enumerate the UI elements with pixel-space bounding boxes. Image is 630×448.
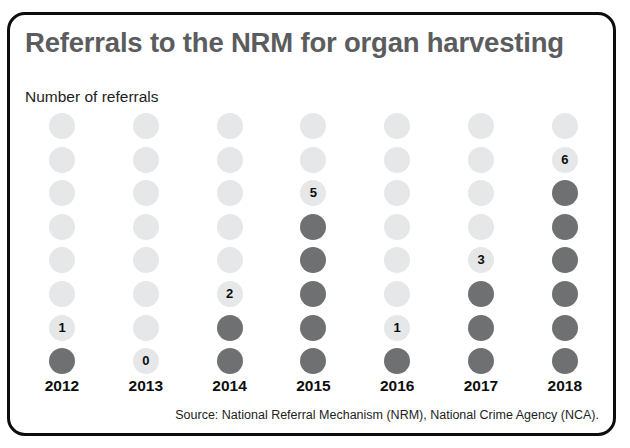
dot-2016-2: 1 <box>384 315 410 341</box>
dot-2013-7 <box>133 147 159 173</box>
chart-axis-label-y: Number of referrals <box>25 88 159 106</box>
dot-2018-5 <box>552 214 578 240</box>
dot-2014-8 <box>217 113 243 139</box>
x-tick-2013: 2013 <box>115 377 177 395</box>
dot-2016-5 <box>384 214 410 240</box>
source-note: Source: National Referral Mechanism (NRM… <box>10 408 599 422</box>
dot-2014-3: 2 <box>217 281 243 307</box>
dot-2015-1 <box>300 348 326 374</box>
dot-2014-6 <box>217 180 243 206</box>
dot-2014-1 <box>217 348 243 374</box>
dot-2017-4: 3 <box>468 247 494 273</box>
dot-2018-6 <box>552 180 578 206</box>
dot-2017-3 <box>468 281 494 307</box>
dot-2018-7: 6 <box>552 147 578 173</box>
dot-2013-3 <box>133 281 159 307</box>
dot-2013-1: 0 <box>133 348 159 374</box>
x-tick-2012: 2012 <box>31 377 93 395</box>
dot-2014-7 <box>217 147 243 173</box>
dot-2016-1 <box>384 348 410 374</box>
dot-column-2018: 6 <box>534 113 596 368</box>
dot-2014-4 <box>217 247 243 273</box>
dot-2012-8 <box>49 113 75 139</box>
x-tick-2015: 2015 <box>282 377 344 395</box>
dot-2015-4 <box>300 247 326 273</box>
x-tick-2018: 2018 <box>534 377 596 395</box>
dot-2015-8 <box>300 113 326 139</box>
dot-2017-1 <box>468 348 494 374</box>
dot-2014-5 <box>217 214 243 240</box>
dot-value-label-2014: 2 <box>217 281 243 307</box>
dot-column-2014: 2 <box>199 113 261 368</box>
dot-2016-3 <box>384 281 410 307</box>
chart-figure: Referrals to the NRM for organ harvestin… <box>7 12 616 436</box>
x-tick-2016: 2016 <box>366 377 428 395</box>
x-tick-2017: 2017 <box>450 377 512 395</box>
dot-2016-8 <box>384 113 410 139</box>
dot-2016-6 <box>384 180 410 206</box>
dot-2014-2 <box>217 315 243 341</box>
dot-value-label-2015: 5 <box>300 180 326 206</box>
dot-2017-6 <box>468 180 494 206</box>
dot-2016-7 <box>384 147 410 173</box>
dot-2017-8 <box>468 113 494 139</box>
dot-2015-2 <box>300 315 326 341</box>
dot-column-2017: 3 <box>450 113 512 368</box>
dot-value-label-2012: 1 <box>49 315 75 341</box>
dot-value-label-2017: 3 <box>468 247 494 273</box>
dot-2018-4 <box>552 247 578 273</box>
dot-value-label-2016: 1 <box>384 315 410 341</box>
dot-value-label-2018: 6 <box>552 147 578 173</box>
dot-2016-4 <box>384 247 410 273</box>
dot-2017-2 <box>468 315 494 341</box>
plot-area: 1025136 <box>10 113 613 368</box>
dot-2018-2 <box>552 315 578 341</box>
dot-column-2016: 1 <box>366 113 428 368</box>
dot-2012-3 <box>49 281 75 307</box>
dot-2013-5 <box>133 214 159 240</box>
dot-2015-3 <box>300 281 326 307</box>
dot-2013-6 <box>133 180 159 206</box>
dot-2018-1 <box>552 348 578 374</box>
dot-2013-8 <box>133 113 159 139</box>
dot-2013-2 <box>133 315 159 341</box>
dot-column-2012: 1 <box>31 113 93 368</box>
dot-2017-7 <box>468 147 494 173</box>
dot-value-label-2013: 0 <box>133 348 159 374</box>
dot-2012-1 <box>49 348 75 374</box>
chart-title: Referrals to the NRM for organ harvestin… <box>25 27 564 59</box>
dot-2015-7 <box>300 147 326 173</box>
x-axis: 2012201320142015201620172018 <box>10 377 613 401</box>
x-tick-2014: 2014 <box>199 377 261 395</box>
dot-column-2015: 5 <box>282 113 344 368</box>
dot-2018-8 <box>552 113 578 139</box>
dot-2015-6: 5 <box>300 180 326 206</box>
dot-2018-3 <box>552 281 578 307</box>
dot-column-2013: 0 <box>115 113 177 368</box>
dot-2012-4 <box>49 247 75 273</box>
dot-2017-5 <box>468 214 494 240</box>
dot-2012-6 <box>49 180 75 206</box>
dot-2012-2: 1 <box>49 315 75 341</box>
dot-2013-4 <box>133 247 159 273</box>
dot-2012-7 <box>49 147 75 173</box>
dot-2015-5 <box>300 214 326 240</box>
dot-2012-5 <box>49 214 75 240</box>
